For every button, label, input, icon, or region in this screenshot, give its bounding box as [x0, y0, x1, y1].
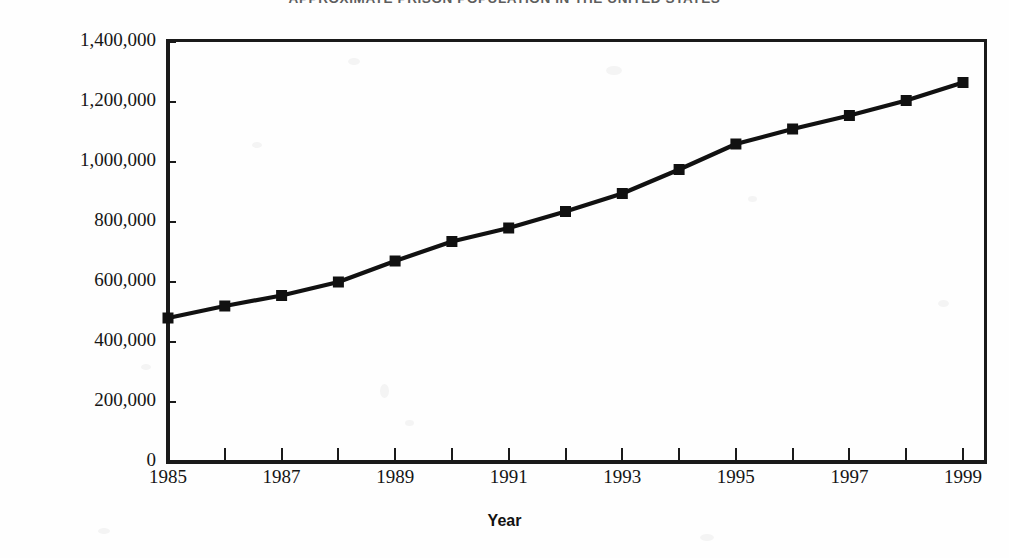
x-axis-tick-label: 1995 — [691, 466, 781, 488]
y-axis-tick-label: 1,000,000 — [26, 149, 156, 171]
x-axis-title: Year — [0, 512, 1009, 530]
x-axis-tick — [848, 448, 850, 461]
y-axis-tick-label: 400,000 — [26, 329, 156, 351]
y-axis-tick — [166, 41, 176, 43]
x-axis-tick-label: 1991 — [464, 466, 554, 488]
x-axis-tick-label: 1993 — [577, 466, 667, 488]
y-axis-tick — [166, 341, 176, 343]
y-axis-tick — [166, 221, 176, 223]
x-axis-tick — [565, 448, 567, 461]
y-axis-tick-label: 600,000 — [26, 269, 156, 291]
plot-frame-top — [166, 39, 987, 42]
y-axis-tick-label: 200,000 — [26, 389, 156, 411]
x-axis-tick — [337, 448, 339, 461]
y-axis-tick — [166, 101, 176, 103]
x-axis-tick — [281, 448, 283, 461]
scan-speckle — [700, 534, 714, 541]
y-axis-tick-label: 800,000 — [26, 209, 156, 231]
x-axis-tick-label: 1999 — [918, 466, 1008, 488]
plot-area — [166, 41, 987, 462]
y-axis-tick — [166, 401, 176, 403]
x-axis-tick — [451, 448, 453, 461]
y-axis-tick-label: 1,400,000 — [26, 29, 156, 51]
plot-frame-right — [984, 39, 987, 464]
y-axis-tick — [166, 461, 176, 463]
x-axis-tick-label: 1987 — [237, 466, 327, 488]
x-axis-tick-label: 1985 — [123, 466, 213, 488]
scanned-figure-page: APPROXIMATE PRISON POPULATION IN THE UNI… — [0, 0, 1009, 558]
x-axis-tick — [792, 448, 794, 461]
y-axis-tick — [166, 161, 176, 163]
y-axis-tick-label: 1,200,000 — [26, 89, 156, 111]
x-axis-tick-label: 1997 — [804, 466, 894, 488]
y-axis-tick — [166, 281, 176, 283]
x-axis-tick — [394, 448, 396, 461]
x-axis-tick — [224, 448, 226, 461]
x-axis-tick — [678, 448, 680, 461]
x-axis-line — [166, 460, 987, 464]
x-axis-tick — [508, 448, 510, 461]
scan-speckle — [141, 364, 151, 370]
x-axis-tick — [962, 448, 964, 461]
x-axis-tick — [905, 448, 907, 461]
x-axis-tick — [621, 448, 623, 461]
x-axis-tick-label: 1989 — [350, 466, 440, 488]
x-axis-tick — [167, 448, 169, 461]
figure-title: APPROXIMATE PRISON POPULATION IN THE UNI… — [0, 0, 1009, 3]
x-axis-tick — [735, 448, 737, 461]
